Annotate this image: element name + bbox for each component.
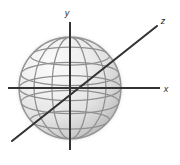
z-axis-label: z xyxy=(160,16,166,26)
x-axis-label: x xyxy=(163,84,169,94)
coordinate-sphere-figure: y x z xyxy=(0,0,180,165)
figure-canvas: y x z xyxy=(0,0,180,165)
y-axis-label: y xyxy=(64,8,70,18)
